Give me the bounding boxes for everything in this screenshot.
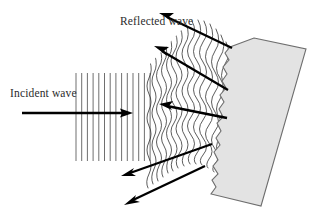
reflected-ray-lower-2-arrowhead <box>124 195 140 205</box>
reflected-ray-middle-arrowhead <box>159 101 173 110</box>
diagram-canvas: Incident wave Reflected wave <box>0 0 321 218</box>
reflected-ray-lower-2-line <box>133 166 205 200</box>
reflected-ray-middle-line <box>167 106 227 118</box>
incident-wavefront-lines <box>76 73 150 161</box>
incident-ray <box>22 109 133 118</box>
wave-reflection-figure: Incident wave Reflected wave <box>0 0 321 218</box>
incident-wave-label: Incident wave <box>10 87 77 99</box>
incident-wavefront-group <box>76 73 150 161</box>
reflected-wave-label: Reflected wave <box>120 15 193 27</box>
reflected-ray-lower-1 <box>121 144 212 176</box>
